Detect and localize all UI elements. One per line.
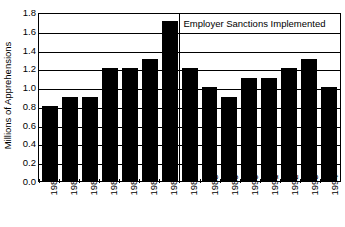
bar: [62, 97, 78, 182]
x-tick-mark: [200, 179, 201, 183]
bar-slot: [239, 14, 259, 181]
bar-slot: [80, 14, 100, 181]
bar-slot: [279, 14, 299, 181]
x-tick-mark: [320, 179, 321, 183]
bar-slot: [140, 14, 160, 181]
event-annotation-label: Employer Sanctions Implemented: [183, 19, 325, 29]
bar: [182, 68, 198, 181]
x-axis-tick-labels: 1980198119821983198419851986198719881989…: [38, 183, 341, 227]
x-slot: 1984: [119, 183, 139, 227]
bar: [261, 78, 277, 181]
x-slot: 1986: [159, 183, 179, 227]
x-slot: 1982: [79, 183, 99, 227]
x-tick-label: 1982: [89, 174, 99, 195]
x-slot: 1988: [200, 183, 220, 227]
bar: [221, 97, 237, 182]
bar: [321, 87, 337, 181]
x-tick-mark: [240, 179, 241, 183]
x-tick-label: 1994: [330, 174, 340, 195]
x-tick-label: 1987: [189, 174, 199, 195]
bar-slot: [259, 14, 279, 181]
bar-slot: [319, 14, 339, 181]
x-tick-mark: [59, 179, 60, 183]
x-slot: 1983: [99, 183, 119, 227]
x-tick-label: 1984: [129, 174, 139, 195]
y-tick-label: 0.6: [23, 121, 36, 131]
bar-chart: Millions of Apprehensions 0.00.20.40.60.…: [0, 0, 345, 227]
bar-slot: [200, 14, 220, 181]
y-tick-label: 0.2: [23, 158, 36, 168]
bar-slot: [219, 14, 239, 181]
x-tick-mark: [39, 179, 40, 183]
y-tick-label: 1.4: [23, 46, 36, 56]
x-slot: 1985: [139, 183, 159, 227]
x-tick-label: 1990: [250, 174, 260, 195]
bar-slot: [120, 14, 140, 181]
x-tick-label: 1988: [210, 174, 220, 195]
x-tick-mark: [159, 179, 160, 183]
x-tick-mark: [119, 179, 120, 183]
y-tick-label: 1.8: [23, 8, 36, 18]
x-tick-mark: [300, 179, 301, 183]
x-tick-mark: [280, 179, 281, 183]
x-tick-mark: [179, 179, 180, 183]
bar-slot: [180, 14, 200, 181]
y-tick-label: 1.2: [23, 65, 36, 75]
x-tick-label: 1986: [169, 174, 179, 195]
x-tick-label: 1985: [149, 174, 159, 195]
x-tick-mark: [99, 179, 100, 183]
x-tick-mark: [260, 179, 261, 183]
bar: [102, 68, 118, 181]
x-tick-label: 1981: [69, 174, 79, 195]
plot-area: Employer Sanctions Implemented: [38, 13, 341, 182]
x-tick-label: 1980: [49, 174, 59, 195]
x-slot: 1987: [179, 183, 199, 227]
y-tick-label: 1.6: [23, 27, 36, 37]
x-tick-label: 1993: [310, 174, 320, 195]
bar: [162, 21, 178, 181]
x-slot: 1992: [280, 183, 300, 227]
y-axis-title-text: Millions of Apprehensions: [3, 41, 14, 149]
bar-slot: [100, 14, 120, 181]
x-tick-label: 1992: [290, 174, 300, 195]
bars-layer: [39, 14, 340, 181]
bar: [42, 106, 58, 181]
x-slot: 1989: [220, 183, 240, 227]
x-slot: 1990: [240, 183, 260, 227]
bar: [82, 97, 98, 182]
x-tick-label: 1983: [109, 174, 119, 195]
y-tick-label: 0.4: [23, 140, 36, 150]
bar: [122, 68, 138, 181]
x-tick-mark: [220, 179, 221, 183]
x-tick-label: 1989: [230, 174, 240, 195]
bar: [202, 87, 218, 181]
y-axis-tick-labels: 0.00.20.40.60.81.01.21.41.61.8: [15, 8, 37, 182]
bar: [281, 68, 297, 181]
x-tick-mark: [79, 179, 80, 183]
x-slot: 1991: [260, 183, 280, 227]
bar-slot: [60, 14, 80, 181]
bar-slot: [299, 14, 319, 181]
y-tick-label: 1.0: [23, 83, 36, 93]
bar: [142, 59, 158, 181]
y-tick-label: 0.0: [23, 177, 36, 187]
x-tick-mark: [139, 179, 140, 183]
bar-slot: [160, 14, 180, 181]
x-tick-label: 1991: [270, 174, 280, 195]
x-slot: 1993: [300, 183, 320, 227]
bar-slot: [40, 14, 60, 181]
x-slot: 1994: [320, 183, 340, 227]
x-slot: 1980: [39, 183, 59, 227]
bar: [301, 59, 317, 181]
y-tick-label: 0.8: [23, 102, 36, 112]
y-axis-title: Millions of Apprehensions: [0, 0, 16, 190]
event-marker-line: [179, 13, 180, 182]
bar: [241, 78, 257, 181]
x-slot: 1981: [59, 183, 79, 227]
